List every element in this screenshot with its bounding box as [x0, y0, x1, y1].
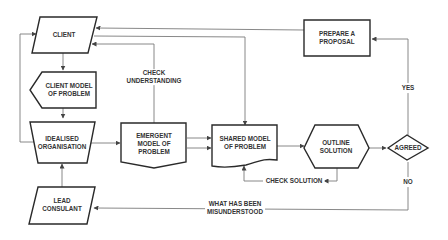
check-solution-label: CHECK SOLUTION: [264, 177, 325, 185]
outline-solution-label: OUTLINE SOLUTION: [320, 139, 353, 155]
client-label: CLIENT: [53, 31, 76, 39]
client-model-label: CLIENT MODEL OF PROBLEM: [45, 82, 92, 98]
prepare-proposal-label: PREPARE A PROPOSAL: [319, 30, 355, 46]
check-understanding-label: CHECK UNDERSTANDING: [127, 69, 182, 85]
emergent-model-label: EMERGENT MODEL OF PROBLEM: [136, 132, 172, 156]
no-label: NO: [403, 177, 412, 187]
yes-label: YES: [402, 83, 415, 93]
misunderstood-label: WHAT HAS BEEN MISUNDERSTOOD: [205, 200, 265, 216]
shared-model-label: SHARED MODEL OF PROBLEM: [219, 135, 270, 151]
agreed-label: AGREED: [395, 144, 422, 152]
lead-consultant-label: LEAD CONSULANT: [42, 197, 82, 213]
idealised-organisation-label: IDEALISED ORGANISATION: [38, 135, 87, 151]
